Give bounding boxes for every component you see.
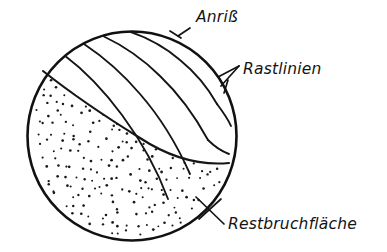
stipple-dot bbox=[148, 206, 150, 208]
stipple-dot bbox=[46, 102, 48, 104]
stipple-dot bbox=[138, 168, 140, 170]
stipple-dot bbox=[65, 121, 67, 123]
stipple-dot bbox=[118, 129, 120, 131]
stipple-dot bbox=[168, 214, 170, 216]
stipple-dot bbox=[78, 143, 80, 145]
stipple-dot bbox=[61, 139, 64, 142]
stipple-dot bbox=[98, 120, 100, 122]
stipple-dot bbox=[88, 195, 91, 198]
stipple-dot bbox=[142, 196, 144, 198]
stipple-dot bbox=[139, 179, 142, 182]
stipple-dot bbox=[135, 213, 138, 216]
stipple-dot bbox=[122, 140, 124, 142]
stipple-dot bbox=[96, 171, 98, 173]
stipple-dot bbox=[151, 211, 153, 213]
stipple-dot bbox=[65, 165, 67, 167]
stipple-dot bbox=[63, 133, 65, 135]
stipple-dot bbox=[102, 217, 104, 219]
stipple-dot bbox=[90, 168, 92, 170]
stipple-dot bbox=[72, 205, 75, 208]
stipple-dot bbox=[72, 138, 75, 141]
stipple-dot bbox=[121, 188, 123, 190]
stipple-dot bbox=[144, 181, 147, 184]
stipple-dot bbox=[85, 105, 87, 107]
stipple-dot bbox=[156, 178, 158, 180]
stipple-dot bbox=[135, 141, 138, 144]
stipple-dot bbox=[206, 173, 208, 175]
stipple-dot bbox=[160, 171, 163, 174]
stipple-dot bbox=[151, 155, 154, 158]
stipple-dot bbox=[82, 167, 84, 169]
beach-marks-leader-lower bbox=[221, 66, 239, 86]
stipple-dot bbox=[90, 160, 93, 163]
stipple-dot bbox=[133, 201, 136, 204]
stipple-dot bbox=[68, 165, 71, 168]
stipple-dot bbox=[51, 121, 53, 123]
stipple-dot bbox=[42, 157, 44, 159]
stipple-dot bbox=[122, 159, 125, 162]
stipple-dot bbox=[80, 111, 83, 114]
stipple-dot bbox=[140, 187, 142, 189]
stipple-dot bbox=[117, 146, 120, 149]
stipple-dot bbox=[209, 171, 211, 173]
stipple-dot bbox=[45, 165, 48, 168]
stipple-dot bbox=[162, 202, 165, 205]
stipple-dot bbox=[71, 212, 74, 215]
stipple-dot bbox=[103, 178, 105, 180]
stipple-dot bbox=[129, 173, 132, 176]
beach-marks-label: Rastlinien bbox=[243, 60, 322, 78]
stipple-dot bbox=[169, 189, 171, 191]
stipple-dot bbox=[180, 222, 182, 224]
stipple-dot bbox=[191, 207, 193, 209]
stipple-dot bbox=[71, 105, 74, 108]
stipple-dot bbox=[163, 221, 166, 224]
stipple-dot bbox=[91, 180, 93, 182]
stipple-dot bbox=[213, 184, 215, 186]
stipple-dot bbox=[135, 193, 137, 195]
stipple-dot bbox=[173, 207, 175, 209]
stipple-dot bbox=[42, 94, 44, 96]
stipple-dot bbox=[146, 224, 148, 226]
stipple-dot bbox=[105, 214, 108, 217]
stipple-dot bbox=[145, 212, 147, 214]
stipple-dot bbox=[175, 211, 177, 213]
stipple-dot bbox=[108, 164, 111, 167]
stipple-dot bbox=[76, 177, 78, 179]
stipple-dot bbox=[116, 208, 118, 210]
stipple-dot bbox=[63, 94, 65, 96]
stipple-dot bbox=[60, 147, 62, 149]
beach-marks-leader-upper bbox=[218, 66, 239, 77]
stipple-dot bbox=[183, 168, 185, 170]
crack-initiation-leader bbox=[178, 28, 190, 36]
stipple-dot bbox=[83, 178, 85, 180]
stipple-dot bbox=[100, 192, 102, 194]
stipple-dot bbox=[111, 150, 113, 152]
stipple-dot bbox=[102, 223, 104, 225]
stipple-dot bbox=[188, 177, 190, 179]
stipple-dot bbox=[41, 122, 43, 124]
stipple-dot bbox=[88, 109, 91, 112]
crack-initiation-label: Anriß bbox=[195, 8, 238, 26]
stipple-dot bbox=[158, 168, 160, 170]
stipple-dot bbox=[117, 232, 119, 234]
stipple-dot bbox=[60, 114, 62, 116]
stipple-dot bbox=[216, 167, 219, 170]
stipple-dot bbox=[77, 150, 79, 152]
stipple-dot bbox=[82, 204, 85, 207]
stipple-dot bbox=[87, 216, 89, 218]
stipple-dot bbox=[87, 140, 89, 142]
stipple-dot bbox=[185, 196, 188, 199]
stipple-dot bbox=[165, 179, 167, 181]
stipple-dot bbox=[94, 187, 96, 189]
stipple-dot bbox=[39, 143, 41, 145]
stipple-dot bbox=[113, 125, 115, 127]
stipple-dot bbox=[49, 95, 52, 98]
stipple-dot bbox=[126, 141, 128, 143]
stipple-dot bbox=[161, 189, 163, 191]
stipple-dot bbox=[162, 193, 165, 196]
stipple-dot bbox=[179, 217, 181, 219]
stipple-dot bbox=[66, 205, 68, 207]
stipple-dot bbox=[38, 133, 40, 135]
stipple-dot bbox=[177, 197, 179, 199]
stipple-dot bbox=[105, 184, 108, 187]
